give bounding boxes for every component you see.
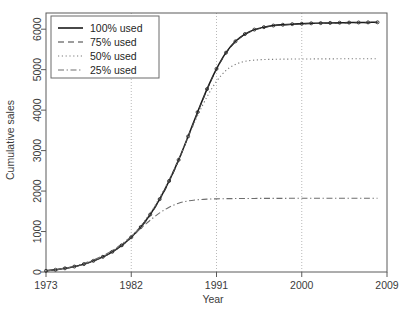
x-tick-label-1973: 1973	[34, 279, 58, 291]
series-line-50-used	[46, 59, 378, 271]
y-tick-label-0: 0	[31, 269, 43, 275]
legend: 100% used75% used50% used25% used	[51, 16, 159, 78]
x-tick-label-1991: 1991	[205, 279, 229, 291]
legend-label-1: 100% used	[90, 22, 143, 34]
legend-label-2: 75% used	[90, 36, 137, 48]
y-tick-label-6000: 6000	[31, 17, 43, 41]
legend-label-3: 50% used	[90, 50, 137, 62]
y-tick-label-3000: 3000	[31, 139, 43, 163]
y-tick-label-4000: 4000	[31, 98, 43, 122]
y-tick-label-5000: 5000	[31, 58, 43, 82]
x-tick-label-2009: 2009	[375, 279, 399, 291]
y-tick-label-1000: 1000	[31, 220, 43, 244]
legend-label-4: 25% used	[90, 64, 137, 76]
x-axis-title: Year	[202, 293, 224, 305]
cumulative-sales-chart: 1973198219912000200901000200030004000500…	[0, 0, 410, 317]
y-tick-label-2000: 2000	[31, 179, 43, 203]
chart-container: 1973198219912000200901000200030004000500…	[0, 0, 410, 317]
y-axis-title: Cumulative sales	[4, 100, 16, 180]
x-tick-label-2000: 2000	[290, 279, 314, 291]
x-tick-label-1982: 1982	[120, 279, 144, 291]
